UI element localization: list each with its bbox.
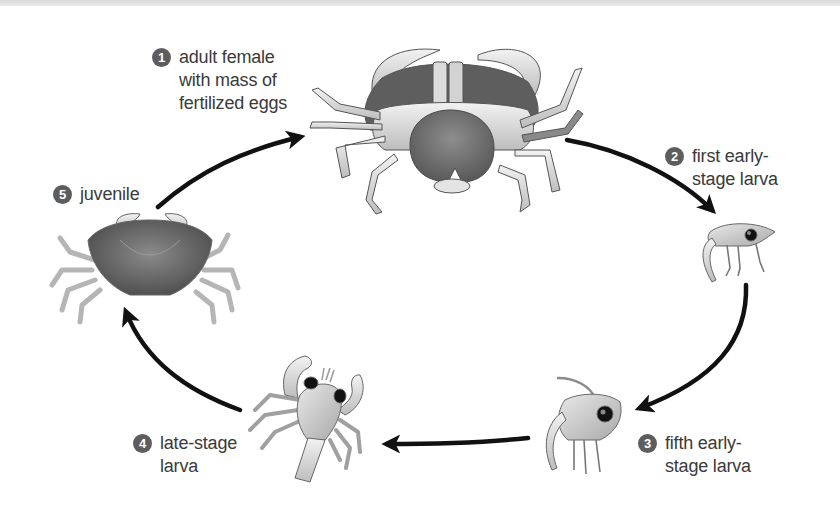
stage-5-label: 5 juvenile [53, 183, 139, 206]
stage-3-label: 3 fifth early- stage larva [638, 432, 751, 478]
zoea-larva-icon [703, 224, 775, 282]
juvenile-crab-icon [52, 214, 238, 322]
megalopa-larva-icon [250, 356, 363, 482]
stage-2-label: 2 first early- stage larva [665, 145, 778, 191]
crab-life-cycle-diagram: 1 adult female with mass of fertilized e… [0, 0, 840, 510]
stage-1-number-badge: 1 [152, 48, 171, 67]
arrow-2-to-3 [640, 285, 746, 408]
stage-3-number-badge: 3 [638, 434, 657, 453]
stage-5-number-badge: 5 [53, 185, 72, 204]
stage-4-number-badge: 4 [133, 434, 152, 453]
stage-4-label: 4 late-stage larva [133, 432, 237, 478]
adult-female-crab-underside-icon [310, 49, 583, 214]
late-zoea-larva-icon [546, 378, 621, 474]
arrow-4-to-5 [126, 312, 240, 410]
arrow-3-to-4 [387, 438, 528, 444]
stage-1-label: 1 adult female with mass of fertilized e… [152, 46, 287, 115]
stage-2-number-badge: 2 [665, 147, 684, 166]
arrow-5-to-1 [158, 137, 300, 207]
